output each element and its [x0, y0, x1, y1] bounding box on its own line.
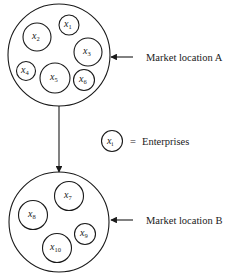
- enterprise-x5: x5: [40, 63, 70, 93]
- enterprise-x6: x6: [74, 70, 95, 91]
- legend: xi = Enterprises: [102, 131, 190, 152]
- enterprise-x4: x4: [17, 62, 36, 81]
- enterprise-label: x9: [79, 227, 88, 239]
- market-a-boundary: [8, 4, 110, 106]
- enterprise-label: x6: [78, 73, 87, 85]
- legend-equals: =: [130, 136, 136, 147]
- market-diagram: x1x2x3x4x5x6 Market location A xi = Ente…: [0, 0, 234, 277]
- enterprise-label: x7: [63, 189, 72, 201]
- enterprise-label: x3: [82, 45, 91, 57]
- enterprise-x10: x10: [43, 234, 72, 263]
- enterprise-x3: x3: [74, 38, 102, 66]
- market-location-b: x7x8x9x10 Market location B: [9, 172, 222, 272]
- enterprise-x9: x9: [75, 224, 96, 245]
- enterprise-x8: x8: [19, 201, 48, 230]
- enterprise-x1: x1: [59, 15, 79, 35]
- legend-symbol: xi: [106, 135, 113, 147]
- enterprise-x7: x7: [55, 182, 84, 211]
- legend-text: Enterprises: [142, 136, 189, 147]
- enterprise-label: x4: [20, 64, 29, 76]
- market-location-a: x1x2x3x4x5x6 Market location A: [8, 4, 223, 106]
- enterprise-label: x10: [49, 241, 61, 253]
- market-a-label: Market location A: [146, 52, 223, 63]
- enterprise-label: x5: [49, 71, 58, 83]
- market-b-label: Market location B: [146, 215, 222, 226]
- enterprise-label: x8: [27, 208, 36, 220]
- enterprise-x2: x2: [23, 23, 51, 51]
- enterprise-label: x2: [31, 30, 40, 42]
- market-b-boundary: [9, 172, 109, 272]
- enterprise-label: x1: [63, 18, 72, 30]
